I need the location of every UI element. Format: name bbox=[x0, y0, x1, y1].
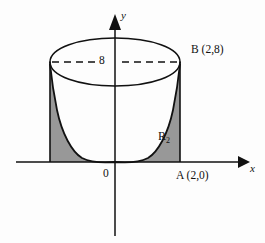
point-a-label: A (2,0) bbox=[176, 170, 209, 182]
point-b-label: B (2,8) bbox=[191, 44, 224, 56]
origin-label: 0 bbox=[103, 168, 109, 180]
x-axis-label: x bbox=[250, 163, 255, 174]
region-r2-letter: R bbox=[158, 129, 166, 143]
y-axis-label: y bbox=[121, 10, 126, 21]
region-r2-subscript: 2 bbox=[166, 136, 170, 145]
height-value-label: 8 bbox=[99, 55, 105, 67]
figure-canvas bbox=[0, 0, 265, 243]
math-figure: y x 0 8 B (2,8) A (2,0) R2 bbox=[0, 0, 265, 243]
y-axis-arrowhead bbox=[109, 14, 121, 30]
x-axis-arrowhead bbox=[238, 156, 250, 168]
region-r2-label: R2 bbox=[158, 130, 170, 145]
